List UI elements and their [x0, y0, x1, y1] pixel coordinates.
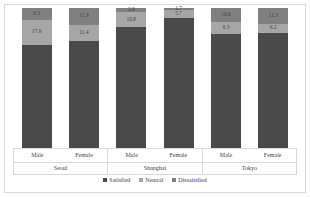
- axis-group-row: Seoul: [14, 162, 107, 174]
- legend-item-dissatisfied: Dissatisfied: [172, 177, 206, 183]
- bar-segment-dissatisfied: 8.3: [22, 8, 52, 20]
- legend-swatch-icon: [103, 178, 107, 182]
- bar-value-label: 11.9: [69, 14, 99, 19]
- axis-label-female: Female: [249, 152, 296, 158]
- axis-label-male: Male: [14, 152, 61, 158]
- bar-segment-neutral: 11.4: [69, 25, 99, 41]
- stacked-bar: 11.36.2: [258, 8, 288, 148]
- bar-segment-neutral: 17.9: [22, 20, 52, 45]
- axis-group-row: Tokyo: [203, 162, 296, 174]
- bar-value-label: 8.3: [22, 11, 52, 16]
- bar-value-label: 6.2: [258, 26, 288, 31]
- bar-segment-neutral: 10.8: [116, 12, 146, 27]
- legend-item-satisfied: Satisfied: [103, 177, 130, 183]
- chart-legend: SatisfiedNeutralDissatisfied: [0, 177, 310, 183]
- axis-subcategory-row: MaleFemale: [14, 149, 107, 162]
- axis-group-tokyo: MaleFemaleTokyo: [202, 149, 296, 174]
- stacked-bar: 8.317.9: [22, 8, 52, 148]
- axis-group-label: Tokyo: [242, 165, 257, 171]
- bar-segment-satisfied: [211, 34, 241, 148]
- axis-label-female: Female: [155, 152, 202, 158]
- bar-segment-satisfied: [22, 45, 52, 148]
- bar-value-label: 11.3: [258, 13, 288, 18]
- bar-segment-dissatisfied: 11.3: [258, 8, 288, 24]
- bar-segment-dissatisfied: 11.9: [69, 8, 99, 25]
- legend-item-neutral: Neutral: [139, 177, 163, 183]
- bar-value-label: 8.3: [211, 25, 241, 30]
- bar-value-label: 10.0: [211, 12, 241, 17]
- bar-segment-satisfied: [69, 41, 99, 148]
- stacked-bar: 10.08.3: [211, 8, 241, 148]
- plot-area: 8.317.911.911.42.910.81.75.710.08.311.36…: [13, 8, 297, 148]
- legend-label: Neutral: [145, 177, 163, 183]
- axis-group-label: Shanghai: [144, 165, 166, 171]
- legend-swatch-icon: [172, 178, 176, 182]
- stacked-bar: 11.911.4: [69, 8, 99, 148]
- axis-group-row: Shanghai: [108, 162, 201, 174]
- legend-swatch-icon: [139, 178, 143, 182]
- axis-subcategory-row: MaleFemale: [203, 149, 296, 162]
- legend-label: Satisfied: [109, 177, 130, 183]
- chart-figure: 8.317.911.911.42.910.81.75.710.08.311.36…: [0, 0, 310, 197]
- axis-label-male: Male: [203, 152, 250, 158]
- bar-value-label: 10.8: [116, 17, 146, 22]
- axis-group-label: Seoul: [54, 165, 68, 171]
- axis-subcategory-row: MaleFemale: [108, 149, 201, 162]
- bar-segment-satisfied: [116, 27, 146, 148]
- stacked-bar: 1.75.7: [164, 8, 194, 148]
- bar-segment-dissatisfied: 10.0: [211, 8, 241, 22]
- axis-label-female: Female: [61, 152, 108, 158]
- bar-segment-neutral: 5.7: [164, 10, 194, 18]
- bar-segment-neutral: 6.2: [258, 24, 288, 33]
- axis-group-seoul: MaleFemaleSeoul: [14, 149, 107, 174]
- stacked-bar: 2.910.8: [116, 8, 146, 148]
- legend-label: Dissatisfied: [178, 177, 206, 183]
- bar-segment-neutral: 8.3: [211, 22, 241, 34]
- bar-value-label: 11.4: [69, 30, 99, 35]
- category-axis: MaleFemaleSeoulMaleFemaleShanghaiMaleFem…: [13, 148, 297, 175]
- bar-value-label: 5.7: [164, 12, 194, 17]
- bar-value-label: 17.9: [22, 30, 52, 35]
- axis-label-male: Male: [108, 152, 155, 158]
- axis-group-shanghai: MaleFemaleShanghai: [107, 149, 201, 174]
- bar-segment-satisfied: [258, 33, 288, 149]
- bar-segment-satisfied: [164, 18, 194, 148]
